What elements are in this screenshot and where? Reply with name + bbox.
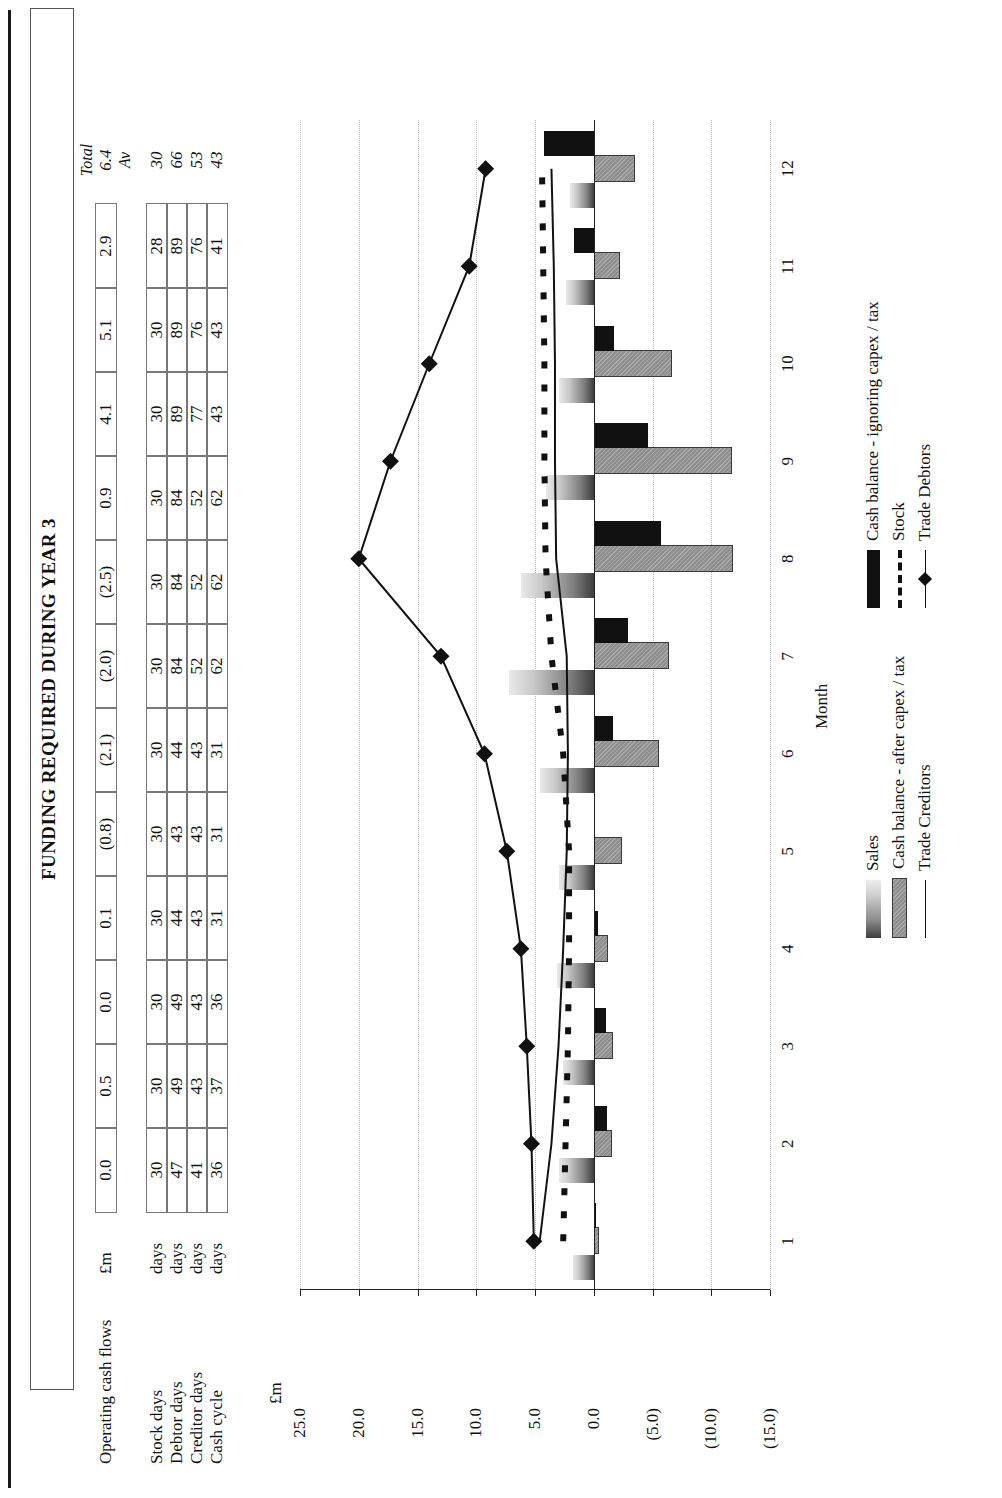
data-point-marker (512, 940, 529, 957)
legend-item: Cash balance - ignoring capex / tax (860, 301, 886, 608)
table-cell: 37 (207, 1044, 227, 1128)
data-table-body: TotalOperating cash flows£m0.00.50.00.1(… (78, 116, 227, 1468)
table-cell: 84 (167, 456, 187, 540)
legend-column-left: SalesCash balance - after capex / taxTra… (860, 656, 938, 938)
data-point-marker (523, 1135, 540, 1152)
legend-label: Trade Debtors (915, 444, 935, 541)
x-axis-tick-label: 2 (778, 1124, 798, 1164)
table-cell: 31 (207, 792, 227, 876)
y-axis-tick-label: (15.0) (760, 1408, 780, 1478)
x-axis-tick-label: 1 (778, 1221, 798, 1261)
table-cell: 44 (167, 876, 187, 960)
table-cell: 43 (167, 792, 187, 876)
av-header: Av (116, 116, 134, 204)
x-axis-tick-label: 10 (778, 344, 798, 384)
cash-ignoring-swatch-icon (867, 550, 880, 608)
legend-column-right: Cash balance - ignoring capex / taxStock… (860, 301, 938, 608)
table-cell: 0.0 (96, 960, 116, 1044)
legend-item: Stock (886, 301, 912, 608)
y-axis-tick (418, 1290, 419, 1296)
table-row-label: Stock days (147, 1274, 167, 1468)
x-axis-tick-label: 12 (778, 149, 798, 189)
table-cell: 0.1 (96, 876, 116, 960)
stock-dashed-line-icon (892, 550, 907, 608)
trade-debtors-diamond-line-icon (918, 550, 933, 608)
table-cell: 31 (207, 876, 227, 960)
top-rule (8, 10, 11, 1488)
table-cell: 76 (187, 288, 207, 372)
chart: 25.020.015.010.05.00.0(5.0)(10.0)(15.0)1… (300, 78, 860, 1408)
table-cell: 44 (167, 708, 187, 792)
x-axis-tick-label: 11 (778, 246, 798, 286)
x-axis-tick-label: 6 (778, 734, 798, 774)
table-cell: 41 (187, 1128, 207, 1212)
table-cell: (2.5) (96, 540, 116, 624)
table-cell: 62 (207, 624, 227, 708)
table-row-label: Debtor days (167, 1274, 187, 1468)
y-axis-tick-label: (5.0) (643, 1408, 663, 1478)
table-cell: 30 (147, 1128, 167, 1212)
legend-label: Trade Creditors (915, 764, 935, 871)
legend-item: Trade Creditors (912, 656, 938, 938)
table-cell: 47 (167, 1128, 187, 1212)
table-row-unit: £m (96, 1212, 116, 1274)
data-point-marker (421, 355, 438, 372)
table-cell: 36 (207, 960, 227, 1044)
table-total-cell: 43 (207, 116, 227, 204)
y-axis-tick (476, 1290, 477, 1296)
x-axis-tick-label: 8 (778, 539, 798, 579)
y-axis-tick-label: 25.0 (290, 1408, 310, 1478)
table-cell: 52 (187, 624, 207, 708)
table-cell: 49 (167, 960, 187, 1044)
table-cell: 89 (167, 204, 187, 288)
y-axis-tick-label: 5.0 (525, 1408, 545, 1478)
table-cell: 28 (147, 204, 167, 288)
table-cell: 4.1 (96, 372, 116, 456)
table-cell: 84 (167, 624, 187, 708)
y-axis-tick-label: 20.0 (349, 1408, 369, 1478)
table-cell: 30 (147, 540, 167, 624)
table-total-cell: 53 (187, 116, 207, 204)
table-cell: 30 (147, 708, 167, 792)
table-cell: 30 (147, 876, 167, 960)
y-axis-tick-label: 15.0 (408, 1408, 428, 1478)
legend-label: Sales (863, 835, 883, 871)
table-cell: 30 (147, 456, 167, 540)
table-cell: 36 (207, 1128, 227, 1212)
data-point-marker (518, 1038, 535, 1055)
table-cell: 89 (167, 288, 187, 372)
table-cell: 0.0 (96, 1128, 116, 1212)
table-row-unit: days (207, 1212, 227, 1274)
y-axis-tick (711, 1290, 712, 1296)
line-trade-creditors (540, 169, 568, 1242)
table-spacer-row (134, 116, 147, 1468)
data-point-marker (477, 160, 494, 177)
table-cell: 77 (187, 372, 207, 456)
table-row-unit: days (187, 1212, 207, 1274)
x-axis-tick-label: 7 (778, 636, 798, 676)
y-axis-tick (594, 1290, 595, 1296)
sales-swatch-icon (866, 880, 881, 938)
line-trade-debtors (359, 169, 534, 1242)
data-point-marker (382, 453, 399, 470)
y-axis-tick-label: 10.0 (466, 1408, 486, 1478)
table-total-cell: 66 (167, 116, 187, 204)
y-axis-tick-label: 0.0 (584, 1408, 604, 1478)
y-axis-unit-label: £m (266, 1382, 286, 1404)
legend-item: Trade Debtors (912, 301, 938, 608)
table-cell: 84 (167, 540, 187, 624)
title-box: FUNDING REQUIRED DURING YEAR 3 (30, 8, 74, 1390)
trade-creditors-line-icon (918, 880, 933, 938)
table-row: Cash cycledays36373631313162626243434143 (207, 116, 227, 1468)
table-total-cell: 6.4 (96, 116, 116, 204)
table-row: Debtor daysdays4749494443448484848989896… (167, 116, 187, 1468)
data-point-marker (498, 843, 515, 860)
table-cell: 0.9 (96, 456, 116, 540)
table-cell: 41 (207, 204, 227, 288)
page-title: FUNDING REQUIRED DURING YEAR 3 (38, 9, 60, 1389)
table-cell: (2.1) (96, 708, 116, 792)
y-axis-tick (535, 1290, 536, 1296)
table-cell: 30 (147, 372, 167, 456)
table-cell: 52 (187, 540, 207, 624)
page-canvas: FUNDING REQUIRED DURING YEAR 3 TotalOper… (0, 0, 1002, 1498)
